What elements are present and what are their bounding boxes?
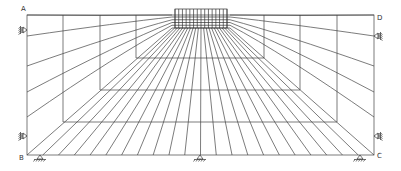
pin-support-icon	[34, 155, 47, 162]
side-curve-right	[230, 17, 374, 36]
side-curve-left	[27, 20, 172, 66]
side-curve-right	[230, 20, 374, 66]
roller-support-icon	[19, 132, 28, 141]
fan-ray	[27, 28, 172, 155]
fan-ray	[201, 28, 202, 155]
corner-label-a: A	[21, 6, 26, 13]
roller-support-icon	[374, 132, 383, 141]
mesh-lines	[27, 15, 374, 155]
side-curve-right	[230, 25, 374, 117]
corner-label-c: C	[377, 153, 382, 160]
roller-support-icon	[374, 32, 383, 41]
side-curve-left	[27, 17, 172, 36]
side-curve-left	[27, 25, 172, 117]
fe-mesh-diagram	[0, 0, 401, 171]
fan-ray	[219, 28, 310, 155]
load-block	[172, 9, 230, 28]
pin-support-icon	[354, 155, 367, 162]
fan-ray	[230, 28, 374, 155]
pin-support-icon	[194, 155, 207, 162]
corner-label-d: D	[377, 15, 382, 22]
corner-label-b: B	[19, 155, 24, 162]
roller-support-icon	[19, 26, 28, 35]
